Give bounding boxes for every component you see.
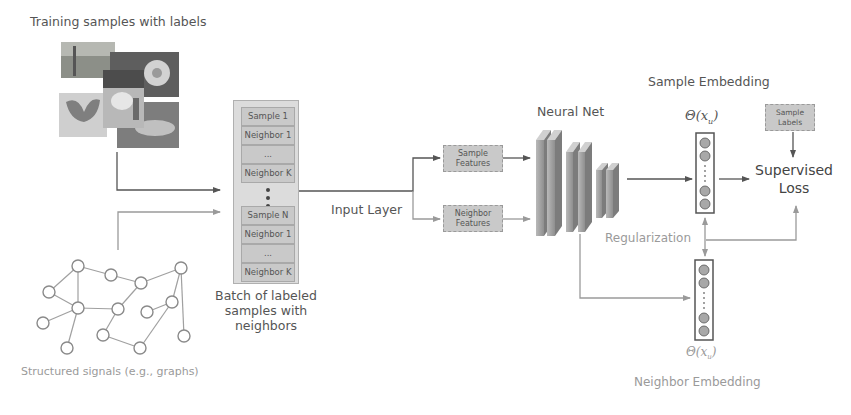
sample-embedding-symbol-close: ) <box>713 108 718 123</box>
neighbor-embedding-symbol: Θ(xu) <box>686 345 717 361</box>
graph-node <box>105 269 117 281</box>
neighbor-embedding-title: Neighbor Embedding <box>634 375 761 389</box>
batch-cell-ellipsis-b: ... <box>241 244 295 263</box>
sample-features-box: Sample Features <box>443 145 503 172</box>
supervised-loss-line2: Loss <box>748 179 840 197</box>
regularization-label: Regularization <box>605 231 691 245</box>
training-to-batch-arrow <box>117 152 220 190</box>
graph-caption: Structured signals (e.g., graphs) <box>21 365 199 378</box>
batch-caption: Batch of labeled samples with neighbors <box>196 288 336 333</box>
graph-node <box>175 262 187 274</box>
training-samples-title: Training samples with labels <box>30 14 206 29</box>
batch-cell-sample-1: Sample 1 <box>241 107 295 126</box>
neighbor-embedding-symbol-close: ) <box>712 345 717 359</box>
batch-caption-line2: samples with neighbors <box>196 303 336 333</box>
batch-to-features-connector <box>299 158 440 191</box>
diagram-canvas <box>0 0 851 415</box>
graph-to-batch-arrow <box>118 212 220 250</box>
graph-node <box>134 342 146 354</box>
supervised-loss-label: Supervised Loss <box>748 161 840 197</box>
batch-cell-sample-n: Sample N <box>241 206 295 225</box>
neural-net-layers <box>536 130 619 236</box>
batch-box: Sample 1 Neighbor 1 ... Neighbor K Sampl… <box>233 100 299 284</box>
graph-node <box>72 260 84 272</box>
graph-node <box>37 317 49 329</box>
graph-nodes <box>37 260 190 354</box>
sample-embedding-vector <box>696 133 714 213</box>
batch-vertical-ellipsis <box>266 188 270 208</box>
sample-labels-line1: Sample <box>766 108 814 118</box>
batch-cell-neighbor-1: Neighbor 1 <box>241 126 295 145</box>
regularization-to-loss-arrow <box>706 206 796 240</box>
graph-node <box>43 286 55 298</box>
sample-embedding-symbol: Θ(xu) <box>685 108 718 126</box>
batch-to-neighbor-features-connector <box>413 191 440 219</box>
neighbor-features-line1: Neighbor <box>444 209 502 219</box>
neural-net-label: Neural Net <box>537 104 604 119</box>
neighbor-embedding-vector <box>695 260 713 340</box>
sample-features-line1: Sample <box>444 149 502 159</box>
graph-node <box>166 296 178 308</box>
neighbor-embedding-symbol-main: Θ(x <box>686 345 707 359</box>
sample-embedding-title: Sample Embedding <box>648 74 770 89</box>
batch-cell-neighbor-kb: Neighbor K <box>241 263 295 282</box>
neighbor-features-box: Neighbor Features <box>443 205 503 232</box>
batch-cell-ellipsis: ... <box>241 145 295 164</box>
input-layer-label: Input Layer <box>331 202 402 217</box>
training-photo-collage <box>59 42 179 148</box>
graph-node <box>61 342 73 354</box>
graph-node <box>141 306 153 318</box>
sample-embedding-symbol-main: Θ(x <box>685 108 708 123</box>
graph-node <box>135 277 147 289</box>
batch-cell-neighbor-1b: Neighbor 1 <box>241 225 295 244</box>
neighbor-features-line2: Features <box>444 219 502 229</box>
batch-cell-neighbor-k: Neighbor K <box>241 164 295 183</box>
graph-node <box>112 303 124 315</box>
graph-node <box>178 330 190 342</box>
sample-labels-line2: Labels <box>766 118 814 128</box>
sample-labels-box: Sample Labels <box>765 104 815 131</box>
sample-features-line2: Features <box>444 159 502 169</box>
graph-node <box>72 302 84 314</box>
graph-node <box>97 329 109 341</box>
supervised-loss-line1: Supervised <box>748 161 840 179</box>
batch-caption-line1: Batch of labeled <box>196 288 336 303</box>
